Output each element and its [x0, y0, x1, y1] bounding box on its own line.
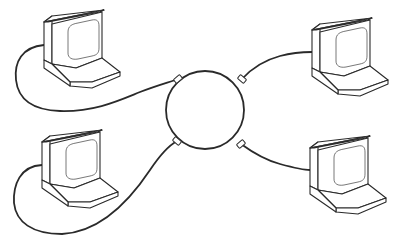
computer-top-right: [312, 18, 388, 96]
cable-top-right: [242, 52, 312, 79]
ring-network-diagram: Token ring network: [0, 0, 400, 249]
computer-top-left: [44, 10, 120, 88]
cable-bottom-right: [241, 144, 310, 170]
computer-bottom-left: [42, 130, 118, 208]
diagram-canvas: [0, 0, 400, 249]
connector-top-left: [173, 75, 182, 84]
computer-bottom-right: [310, 136, 386, 214]
